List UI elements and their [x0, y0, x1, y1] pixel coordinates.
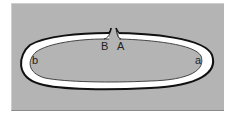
- label-A: A: [117, 40, 125, 52]
- label-b: b: [32, 54, 38, 66]
- label-B: B: [101, 40, 108, 52]
- ring-diagram: B A b a: [0, 0, 236, 115]
- label-a: a: [195, 54, 202, 66]
